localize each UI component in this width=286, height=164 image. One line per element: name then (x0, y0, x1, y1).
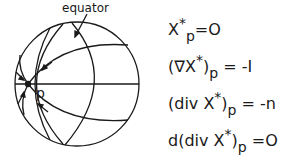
equator-label: equator (62, 1, 109, 15)
left-arc-2 (23, 84, 28, 115)
equator-curve (28, 44, 128, 84)
point-label: p (36, 85, 45, 101)
equation-1: X*p=O (168, 20, 221, 39)
sphere-diagram (0, 0, 140, 164)
equation-4: d(div X*)p =O (168, 131, 278, 150)
point-p (26, 82, 31, 87)
equation-2: (∇X*)p = -I (168, 57, 252, 76)
equation-3: (div X*)p = -n (168, 94, 276, 113)
